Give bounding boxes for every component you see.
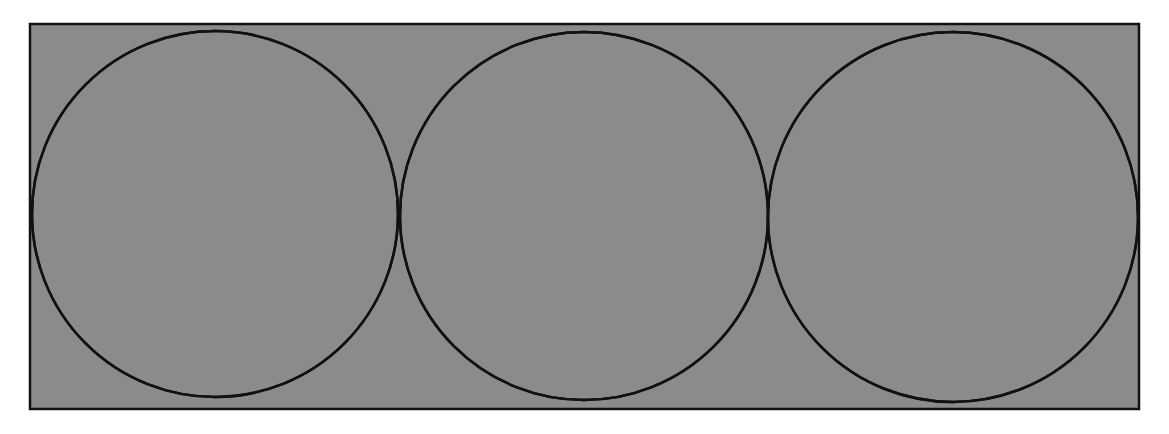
circle-unit <box>768 32 1138 402</box>
outer-circle <box>400 32 768 400</box>
circle-unit <box>400 32 768 400</box>
circles-group <box>32 31 1138 402</box>
outer-circle <box>768 32 1138 402</box>
outer-circle <box>32 31 398 397</box>
circle-unit <box>32 31 398 397</box>
circle-pattern-diagram <box>0 0 1169 434</box>
